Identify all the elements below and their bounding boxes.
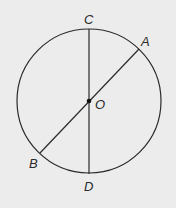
label-o: O	[95, 97, 105, 112]
circle-diagram: C A O B D	[0, 0, 176, 208]
label-b: B	[29, 156, 38, 171]
label-a: A	[140, 34, 150, 49]
center-point	[87, 99, 92, 104]
label-d: D	[84, 179, 93, 194]
label-c: C	[84, 12, 94, 27]
